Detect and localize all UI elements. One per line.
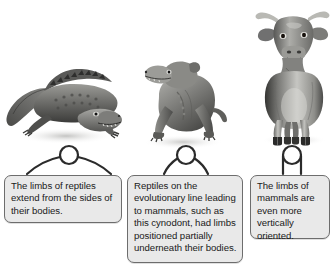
sprawling-posture-diagram xyxy=(18,144,120,176)
semi-erect-posture-diagram xyxy=(156,144,216,176)
caption-box-reptile: The limbs of reptiles extend from the si… xyxy=(4,175,122,223)
crocodile-illustration xyxy=(4,44,124,146)
cynodont-illustration xyxy=(133,52,233,150)
caption-box-cynodont: Reptiles on the evolutionary line leadin… xyxy=(127,175,243,263)
limb-posture-evolution-figure: The limbs of reptiles extend from the si… xyxy=(0,0,333,272)
cow-illustration xyxy=(252,2,332,148)
erect-posture-diagram xyxy=(272,144,312,176)
caption-box-mammal: The limbs of mammals are even more verti… xyxy=(250,175,330,239)
